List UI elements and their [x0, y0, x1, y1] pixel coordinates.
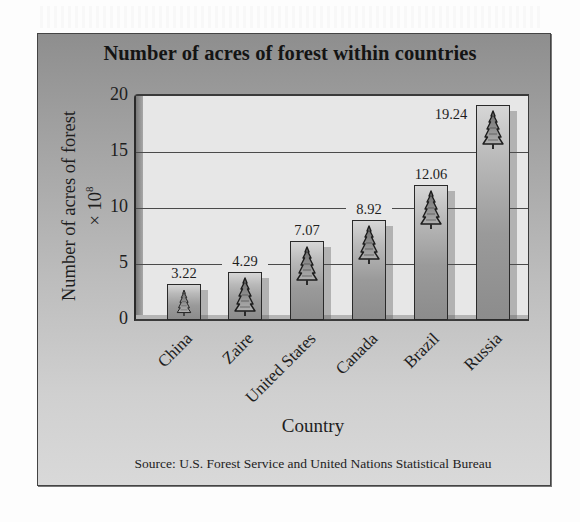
bar-shadow — [262, 278, 269, 320]
bar-zaire — [228, 272, 262, 320]
bar-value-label: 3.22 — [161, 265, 207, 282]
bar-value-label: 8.92 — [346, 201, 392, 218]
chart-title: Number of acres of forest within countri… — [0, 42, 580, 65]
bar-canada — [352, 220, 386, 320]
y-tick-label: 5 — [88, 252, 128, 273]
fir-tree-icon — [177, 289, 192, 321]
bar-shadow — [510, 111, 517, 320]
fir-tree-icon — [482, 110, 504, 154]
y-tick-label: 15 — [88, 140, 128, 161]
y-tick-label: 20 — [88, 84, 128, 105]
bar-brazil — [414, 185, 448, 320]
bar-russia — [476, 105, 510, 320]
fir-tree-icon — [420, 190, 442, 234]
bar-china — [167, 284, 201, 320]
y-tick-label: 0 — [88, 308, 128, 329]
bar-shadow — [448, 191, 455, 320]
fir-tree-icon — [296, 246, 318, 290]
scan-artifact — [40, 6, 540, 28]
fir-tree-icon — [234, 277, 256, 321]
bar-value-label: 19.24 — [421, 106, 481, 123]
bar-value-label: 4.29 — [222, 253, 268, 270]
source-note: Source: U.S. Forest Service and United N… — [0, 456, 580, 472]
bar-united-states — [290, 241, 324, 320]
x-axis-label: Country — [0, 415, 580, 437]
bar-shadow — [324, 247, 331, 320]
y-tick-label: 10 — [88, 196, 128, 217]
bar-shadow — [201, 290, 208, 320]
bar-value-label: 12.06 — [408, 166, 454, 183]
fir-tree-icon — [358, 225, 380, 269]
y-axis-label-exponent: 8 — [83, 186, 95, 192]
bar-shadow — [386, 226, 393, 320]
gridline — [136, 152, 528, 153]
y-axis-label-line1: Number of acres of forest — [59, 76, 79, 336]
gridline — [136, 208, 528, 209]
bar-value-label: 7.07 — [284, 222, 330, 239]
